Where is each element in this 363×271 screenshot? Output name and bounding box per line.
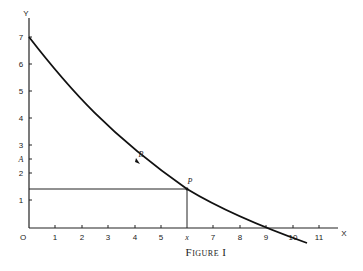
y-axis-label: Y (23, 9, 29, 18)
y-tick-7: 7 (19, 33, 24, 42)
x-tick-3: 3 (106, 233, 111, 242)
x-tick-9: 9 (264, 233, 269, 242)
y-tick-a: A (18, 155, 24, 164)
figure-canvas: Y X O 1 2 3 4 5 x 7 8 9 10 11 (0, 0, 363, 271)
y-tick-4: 4 (19, 114, 24, 123)
x-axis-label: X (341, 229, 347, 238)
x-tick-x: x (184, 233, 189, 242)
x-tick-5: 5 (159, 233, 164, 242)
y-tick-5: 5 (19, 87, 24, 96)
y-tick-1: 1 (19, 196, 24, 205)
x-tick-4: 4 (133, 233, 138, 242)
y-tick-labels: 1 2 A 3 4 5 6 7 (18, 33, 24, 205)
point-p-marker (186, 188, 189, 191)
point-b-label: B (139, 150, 144, 159)
y-tick-6: 6 (19, 60, 24, 69)
origin-label: O (20, 233, 26, 242)
curve (29, 37, 307, 243)
x-tick-1: 1 (53, 233, 58, 242)
x-tick-2: 2 (80, 233, 85, 242)
y-tick-2: 2 (19, 169, 24, 178)
x-tick-8: 8 (238, 233, 243, 242)
x-tick-11: 11 (315, 233, 324, 242)
point-p-label: P (187, 177, 193, 186)
y-tick-3: 3 (19, 141, 24, 150)
figure-caption: FIGURE I (186, 246, 227, 258)
x-tick-7: 7 (211, 233, 216, 242)
